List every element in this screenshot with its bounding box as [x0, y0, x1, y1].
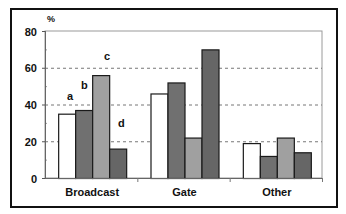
bar-a-gate: [151, 94, 168, 179]
bar-c-broadcast: [93, 76, 110, 179]
bar-d-gate: [202, 50, 219, 179]
bar-b-broadcast: [76, 111, 93, 179]
category-labels: BroadcastGateOther: [65, 186, 292, 198]
y-tick-label: 80: [25, 26, 37, 38]
bar-a-broadcast: [59, 114, 76, 178]
bar-b-gate: [168, 83, 185, 179]
y-tick-labels: 020406080: [25, 26, 37, 185]
category-label: Other: [262, 186, 292, 198]
bar-d-other: [294, 153, 311, 179]
bar-chart: % 020406080 BroadcastGateOther a b c d: [0, 0, 346, 214]
category-label: Gate: [172, 186, 196, 198]
series-label-d: d: [118, 117, 125, 129]
series-label-b: b: [81, 79, 88, 91]
y-tick-label: 0: [31, 173, 37, 185]
y-axis-unit: %: [47, 14, 55, 24]
series-label-a: a: [67, 90, 74, 102]
y-tick-label: 60: [25, 62, 37, 74]
bar-c-other: [277, 138, 294, 178]
y-tick-label: 20: [25, 136, 37, 148]
bar-a-other: [243, 144, 260, 179]
bar-d-broadcast: [110, 149, 127, 178]
bars: [59, 50, 312, 179]
bar-c-gate: [185, 138, 202, 178]
series-label-c: c: [104, 50, 110, 62]
bar-b-other: [260, 156, 277, 178]
y-tick-label: 40: [25, 99, 37, 111]
category-label: Broadcast: [65, 186, 119, 198]
